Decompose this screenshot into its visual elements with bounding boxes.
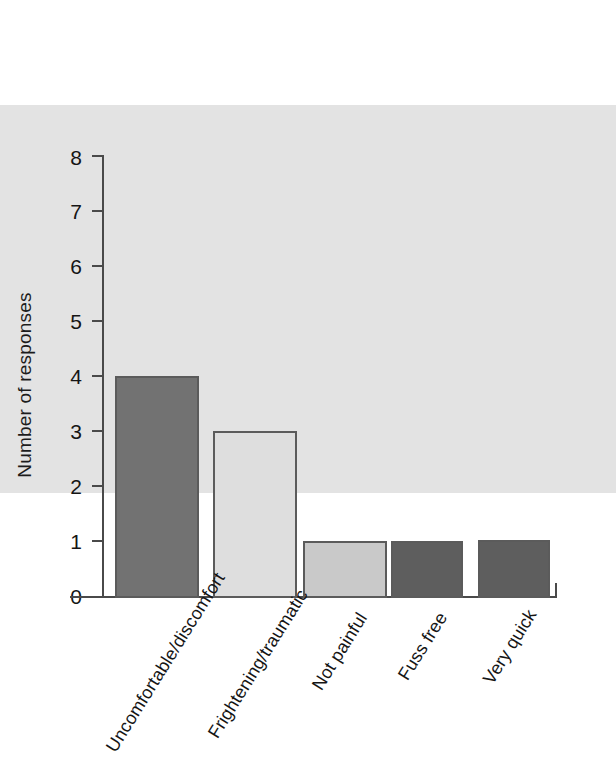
y-tick-label-3: 3 <box>56 421 82 442</box>
x-label-fuss-free: Fuss free <box>394 609 452 685</box>
bar-chart: Number of responses 8 7 6 5 4 3 2 1 0 Un… <box>0 105 616 493</box>
x-label-not-painful: Not painful <box>308 609 372 694</box>
bar-not-painful[interactable] <box>303 541 387 598</box>
y-tick-label-7: 7 <box>56 201 82 222</box>
y-tick-label-6: 6 <box>56 256 82 277</box>
x-label-frightening-traumatic: Frightening/traumatic <box>204 586 313 742</box>
bar-frightening-traumatic[interactable] <box>213 431 297 598</box>
y-tick-label-5: 5 <box>56 311 82 332</box>
y-tick-label-8: 8 <box>56 147 82 168</box>
bar-very-quick[interactable] <box>478 540 550 598</box>
y-axis-title: Number of responses <box>14 275 40 495</box>
bar-fuss-free[interactable] <box>391 541 463 598</box>
y-tick-label-2: 2 <box>56 476 82 497</box>
bar-uncomfortable-discomfort[interactable] <box>115 376 199 599</box>
y-tick-label-1: 1 <box>56 531 82 552</box>
y-axis-line <box>102 155 104 598</box>
x-axis-right-cap <box>555 583 557 598</box>
y-tick-label-4: 4 <box>56 366 82 387</box>
x-label-very-quick: Very quick <box>479 606 541 688</box>
